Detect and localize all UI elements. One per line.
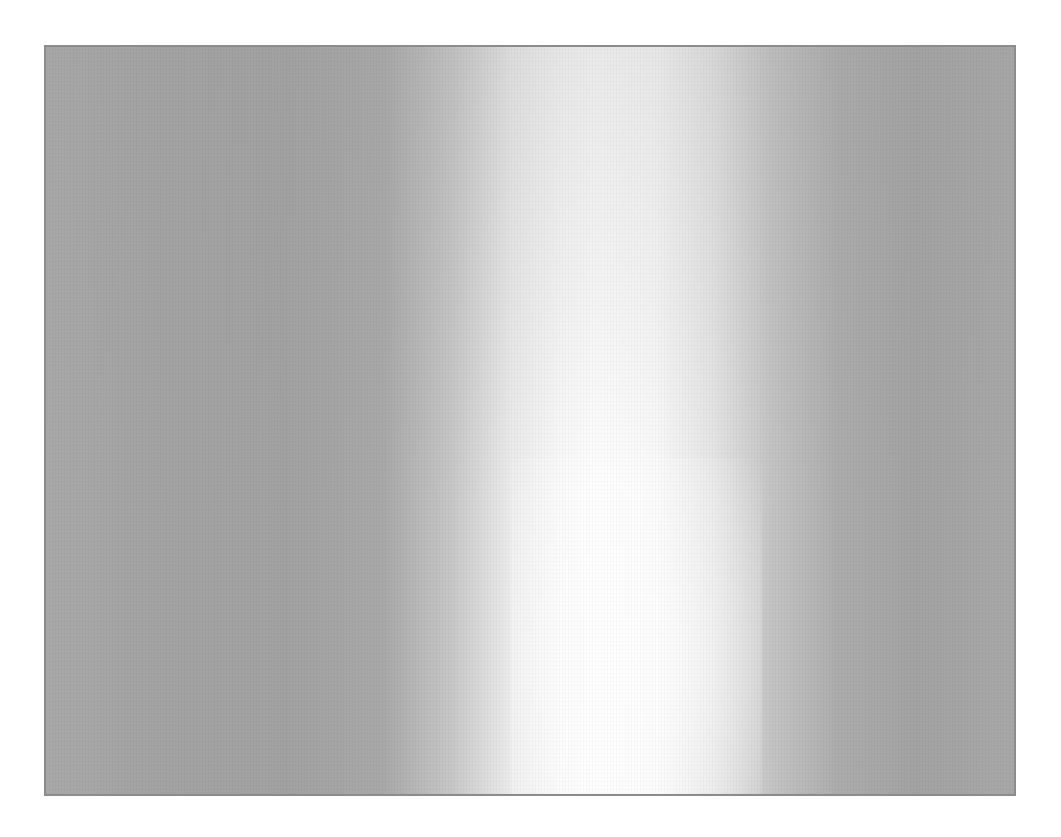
image-canvas: [0, 0, 1061, 837]
texture-grain: [46, 47, 1014, 794]
gradient-panel: [44, 45, 1016, 796]
highlight-glow: [511, 458, 763, 794]
